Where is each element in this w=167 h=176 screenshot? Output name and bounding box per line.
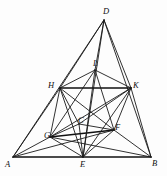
geometry-figure: ABDEHKLCGF	[0, 0, 167, 176]
segment-BG	[50, 137, 151, 157]
segment-KC	[79, 88, 131, 124]
vertex-label-c: C	[78, 116, 84, 125]
vertex-label-k: K	[133, 81, 139, 90]
vertex-label-a: A	[5, 160, 10, 169]
segment-DK	[104, 20, 131, 88]
vertex-label-h: H	[48, 81, 54, 90]
segment-AG	[13, 137, 50, 157]
geometry-canvas	[0, 0, 167, 176]
segment-HF	[60, 88, 114, 130]
vertex-label-f: F	[115, 123, 120, 132]
segment-CF	[79, 124, 114, 130]
vertex-label-d: D	[103, 7, 109, 16]
segment-KL	[95, 70, 131, 88]
segments-layer	[13, 20, 151, 157]
segment-BK	[131, 88, 151, 157]
vertex-label-e: E	[80, 160, 85, 169]
vertex-label-b: B	[152, 159, 157, 168]
segment-KE	[83, 88, 131, 157]
vertex-label-g: G	[44, 131, 50, 140]
vertex-label-l: L	[93, 59, 98, 68]
